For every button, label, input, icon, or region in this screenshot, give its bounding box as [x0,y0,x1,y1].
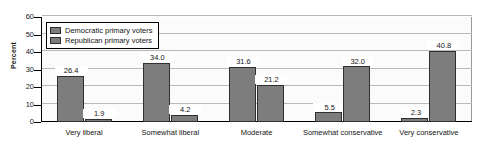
y-axis-tick [34,17,41,18]
category-axis-labels: Very liberalSomewhat liberalModerateSome… [41,128,472,144]
bar-value-label: 4.2 [169,105,202,114]
bar [343,66,370,122]
y-axis-tick-label: 40 [4,48,34,56]
bar-value-label: 34.0 [141,53,174,62]
bar [57,76,84,122]
bar-value-label: 1.9 [83,109,116,118]
y-axis-tick [34,122,41,123]
category-label: Somewhat conservative [303,128,383,137]
bar [85,119,112,122]
y-axis-tick-label: 10 [4,101,34,109]
bar-value-label: 31.6 [227,57,260,66]
bar [257,85,284,122]
y-axis-tick [34,52,41,53]
y-axis-tick [34,87,41,88]
bar-value-label: 5.5 [313,103,346,112]
bar [229,67,256,122]
bar-value-label: 26.4 [55,66,88,75]
bar-value-label: 32.0 [341,57,374,66]
y-axis-tick [34,70,41,71]
bar-value-label: 2.3 [399,108,432,117]
chart-legend: Democratic primary voters Republican pri… [46,22,159,49]
category-label: Very liberal [66,128,103,137]
category-label: Moderate [241,128,273,137]
gridline [42,15,472,16]
bar [143,63,170,123]
legend-label-republican: Republican primary voters [65,37,152,45]
legend-swatch-republican [50,37,61,44]
bar-chart: Percent 0102030405060 26.41.934.04.231.6… [0,0,489,150]
bar [429,51,456,122]
category-label: Somewhat liberal [142,128,200,137]
y-axis-tick [34,105,41,106]
y-axis-tick-label: 50 [4,31,34,39]
y-axis-tick [34,35,41,36]
y-axis-tick-label: 60 [4,13,34,21]
legend-item-republican: Republican primary voters [50,36,153,45]
bar [401,118,428,122]
category-label: Very conservative [399,128,458,137]
legend-label-democratic: Democratic primary voters [65,27,153,35]
y-axis-tick-label: 20 [4,83,34,91]
bar-value-label: 21.2 [255,75,288,84]
bar-value-label: 40.8 [427,41,460,50]
legend-item-democratic: Democratic primary voters [50,26,153,35]
bar [315,112,342,122]
y-axis-tick-label: 30 [4,66,34,74]
legend-swatch-democratic [50,27,61,34]
y-axis-tick-label: 0 [4,118,34,126]
bar [171,115,198,122]
